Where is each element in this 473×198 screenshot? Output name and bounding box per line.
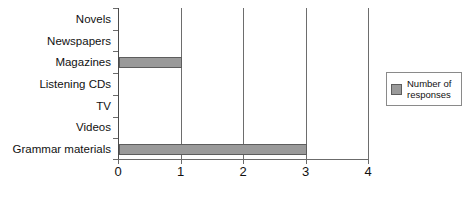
bar [119, 144, 307, 155]
y-axis-category-labels: NovelsNewspapersMagazinesListening CDsTV… [0, 8, 115, 160]
category-label: Videos [0, 121, 111, 133]
y-axis-tick [113, 51, 118, 52]
category-label: Magazines [0, 56, 111, 68]
y-axis-tick [113, 138, 118, 139]
y-axis-tick [113, 8, 118, 9]
chart-legend: Number of responses [386, 72, 462, 106]
x-axis-tick-labels: 01234 [118, 164, 378, 184]
y-axis-tick [113, 30, 118, 31]
x-tick-label: 4 [356, 164, 380, 179]
category-label: Newspapers [0, 35, 111, 47]
category-label: Novels [0, 13, 111, 25]
gridline [243, 8, 244, 160]
plot-area [118, 8, 368, 160]
x-tick-label: 2 [231, 164, 255, 179]
x-tick-label: 1 [169, 164, 193, 179]
category-label: Grammar materials [0, 143, 111, 155]
gridline [181, 8, 182, 160]
x-tick-label: 3 [294, 164, 318, 179]
category-label: TV [0, 100, 111, 112]
category-label: Listening CDs [0, 78, 111, 90]
bar-chart: NovelsNewspapersMagazinesListening CDsTV… [0, 0, 473, 198]
gridline [368, 8, 369, 160]
legend-swatch-icon [391, 84, 402, 95]
bar [119, 57, 182, 68]
gridline [306, 8, 307, 160]
x-tick-label: 0 [106, 164, 130, 179]
y-axis-tick [113, 117, 118, 118]
y-axis-tick [113, 73, 118, 74]
y-axis-line [118, 8, 119, 160]
legend-label: Number of responses [407, 78, 457, 100]
y-axis-tick [113, 95, 118, 96]
y-axis-tick [113, 159, 118, 160]
